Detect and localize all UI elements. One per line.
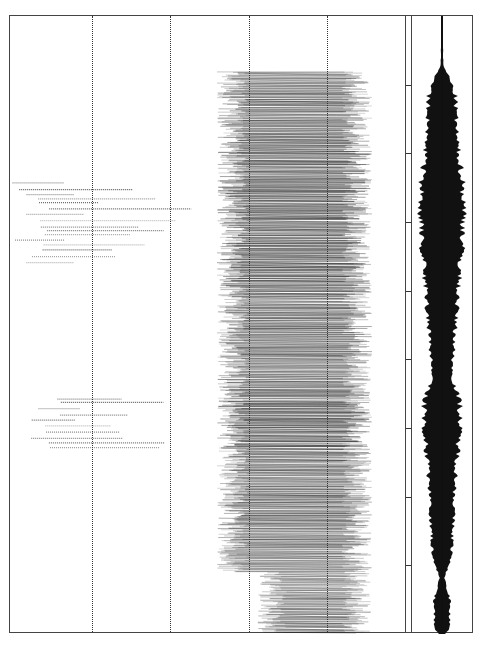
gridline [249, 16, 250, 632]
gridline [92, 16, 93, 632]
spectrogram-panel [9, 15, 409, 633]
gridline [170, 16, 171, 632]
gridline [327, 16, 328, 632]
spectrogram-plot [10, 16, 410, 634]
waveform-panel [411, 15, 473, 633]
waveform-plot [412, 16, 474, 634]
